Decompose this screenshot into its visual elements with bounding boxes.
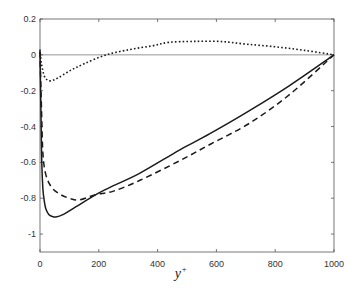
plot-area-border	[40, 19, 334, 252]
x-tick-label: 1000	[324, 259, 344, 269]
y-tick-label: 0.2	[23, 14, 36, 24]
x-axis-label: y+	[173, 264, 187, 281]
y-tick-label: 0	[31, 50, 36, 60]
y-tick-label: -0.2	[20, 86, 36, 96]
plot-frame	[40, 19, 334, 252]
series-dotted	[40, 41, 334, 81]
series-dashed	[40, 51, 334, 200]
data-series	[40, 41, 334, 217]
x-tick-label: 800	[268, 259, 283, 269]
x-tick-label: 400	[150, 259, 165, 269]
y-tick-label: -0.4	[20, 122, 36, 132]
series-solid	[40, 51, 334, 217]
axis-ticks	[40, 19, 334, 252]
y-tick-label: -0.8	[20, 193, 36, 203]
y-tick-label: -1	[28, 229, 36, 239]
x-tick-label: 200	[91, 259, 106, 269]
line-chart: 02004006008001000 0.20-0.2-0.4-0.6-0.8-1…	[0, 0, 361, 296]
y-tick-label: -0.6	[20, 157, 36, 167]
y-tick-labels: 0.20-0.2-0.4-0.6-0.8-1	[20, 14, 36, 239]
x-tick-label: 0	[37, 259, 42, 269]
x-tick-labels: 02004006008001000	[37, 259, 344, 269]
x-tick-label: 600	[209, 259, 224, 269]
